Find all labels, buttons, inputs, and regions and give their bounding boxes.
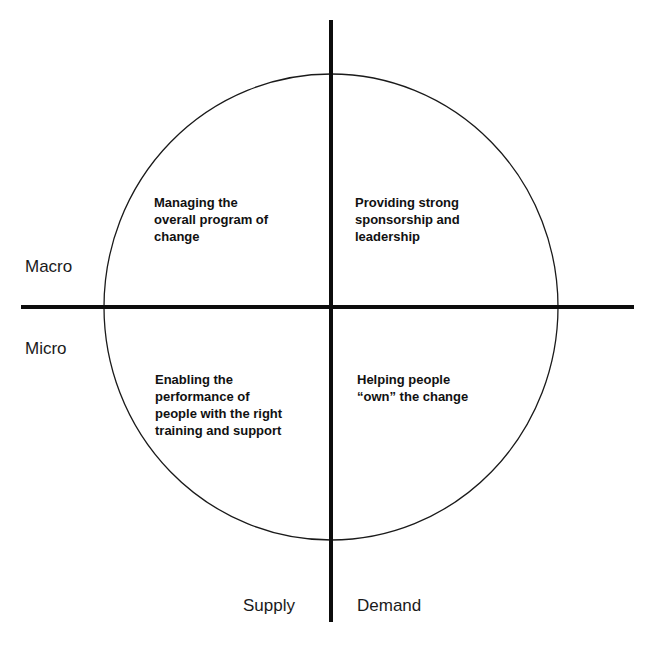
quadrant-top-right-text: Providing strong sponsorship and leaders… [355, 194, 460, 245]
quadrant-top-left-text: Managing the overall program of change [154, 194, 268, 245]
supply-label: Supply [243, 596, 295, 616]
quadrant-text-line: “own” the change [357, 388, 468, 405]
quadrant-text-line: Helping people [357, 371, 468, 388]
quadrant-text-line: Providing strong [355, 194, 460, 211]
quadrant-text-line: Enabling the [155, 371, 282, 388]
quadrant-bottom-left-text: Enabling the performance of people with … [155, 371, 282, 439]
macro-label: Macro [25, 257, 72, 277]
micro-label: Micro [25, 339, 67, 359]
quadrant-text-line: performance of [155, 388, 282, 405]
quadrant-text-line: sponsorship and [355, 211, 460, 228]
quadrant-text-line: leadership [355, 228, 460, 245]
quadrant-text-line: training and support [155, 422, 282, 439]
quadrant-bottom-right-text: Helping people “own” the change [357, 371, 468, 405]
quadrant-diagram [0, 0, 655, 645]
quadrant-text-line: Managing the [154, 194, 268, 211]
quadrant-text-line: people with the right [155, 405, 282, 422]
demand-label: Demand [357, 596, 421, 616]
quadrant-text-line: change [154, 228, 268, 245]
quadrant-text-line: overall program of [154, 211, 268, 228]
